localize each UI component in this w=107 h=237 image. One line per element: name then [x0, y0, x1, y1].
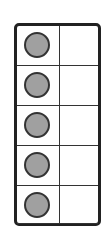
- frame-cell-left: [17, 186, 59, 223]
- filled-counter-icon: [24, 32, 50, 58]
- frame-row: [17, 26, 98, 66]
- frame-row: [17, 146, 98, 186]
- frame-row: [17, 186, 98, 224]
- ten-frame: [14, 23, 101, 226]
- frame-cell-left: [17, 66, 59, 105]
- column-divider: [59, 26, 60, 223]
- filled-counter-icon: [24, 72, 50, 98]
- frame-row: [17, 66, 98, 106]
- frame-cell-right-empty: [60, 26, 98, 65]
- filled-counter-icon: [24, 192, 50, 218]
- frame-row: [17, 106, 98, 146]
- frame-cell-left: [17, 106, 59, 145]
- frame-cell-right-empty: [60, 106, 98, 145]
- frame-cell-right-empty: [60, 66, 98, 105]
- frame-cell-right-empty: [60, 146, 98, 185]
- frame-cell-left: [17, 146, 59, 185]
- filled-counter-icon: [24, 152, 50, 178]
- frame-cell-left: [17, 26, 59, 65]
- frame-cell-right-empty: [60, 186, 98, 223]
- filled-counter-icon: [24, 112, 50, 138]
